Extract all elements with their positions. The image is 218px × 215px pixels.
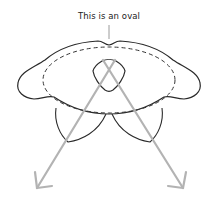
diagram-canvas bbox=[0, 0, 218, 215]
left-arrowhead-icon bbox=[35, 172, 52, 188]
